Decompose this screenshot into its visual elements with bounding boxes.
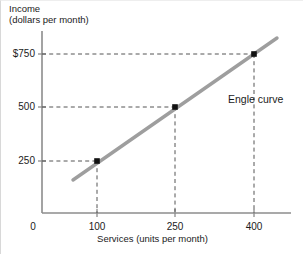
data-point-marker — [251, 51, 257, 57]
engle-curve-figure: Income (dollars per month) — [0, 0, 303, 254]
chart-plot-area — [1, 1, 303, 254]
x-tick-label-400: 400 — [246, 221, 263, 233]
engle-curve-annotation: Engle curve — [228, 93, 283, 105]
x-axis-title: Services (units per month) — [1, 234, 303, 245]
x-tick-label-250: 250 — [167, 221, 184, 233]
data-point-marker — [172, 104, 178, 110]
y-tick-label-500: 500 — [5, 101, 35, 113]
y-tick-label-250: 250 — [5, 155, 35, 167]
data-point-marker — [94, 158, 100, 164]
y-tick-label-750: $750 — [5, 48, 35, 60]
x-tick-label-100: 100 — [89, 221, 106, 233]
x-tick-label-0: 0 — [30, 221, 36, 233]
